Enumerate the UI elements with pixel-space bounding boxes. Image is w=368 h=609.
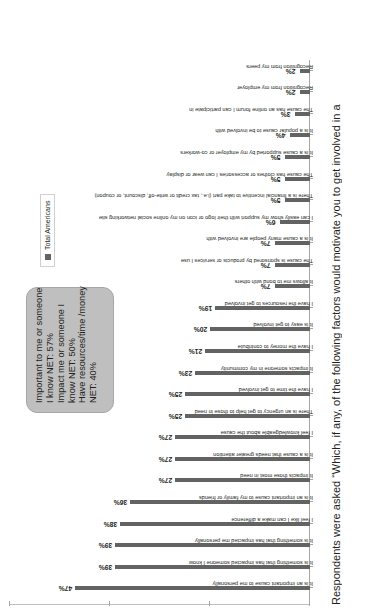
bar-value-label: 25%	[168, 412, 184, 419]
category-label: It is a cause many people are involved w…	[206, 236, 313, 242]
category-label: It is an important cause to my family or…	[199, 494, 313, 500]
category-tick	[310, 242, 313, 243]
category-tick	[310, 436, 313, 437]
category-tick	[310, 479, 313, 480]
category-label: It is a popular cause to be involved wit…	[215, 128, 313, 134]
category-label: It is something that has impacted someon…	[189, 559, 313, 565]
category-label: There is a financial incentive to take p…	[95, 193, 313, 199]
category-label: It is a cause that needs greater attenti…	[213, 451, 313, 457]
category-tick	[310, 544, 313, 545]
bar-value-label: 19%	[198, 304, 214, 311]
category-label: It allows me to bond with others	[235, 279, 313, 285]
category-label: Recognition from my peers	[246, 63, 313, 69]
category-tick	[310, 587, 313, 588]
category-label: The cause is sponsored by products or se…	[181, 257, 313, 263]
category-label: I have the money to contribute	[238, 343, 313, 349]
bar-value-label: 27%	[158, 477, 174, 484]
category-label: It is easy to get involved	[253, 322, 313, 328]
category-label: It impacts someone in my community	[221, 365, 313, 371]
callout-line-2: Impact me or someone I	[56, 297, 67, 403]
bar-value-label: 27%	[158, 455, 174, 462]
category-tick	[310, 156, 313, 157]
value-axis-tick	[309, 601, 310, 606]
bar-value-label: 25%	[168, 391, 184, 398]
bar	[175, 478, 310, 482]
rotated-slide-canvas: 0%20%40%60% 47%39%39%38%36%27%27%27%25%2…	[0, 0, 368, 609]
category-label: Recognition from my employer	[237, 85, 313, 91]
slide: 0%20%40%60% 47%39%39%38%36%27%27%27%25%2…	[0, 0, 368, 609]
callout-line-1: I know NET: 57%	[45, 297, 56, 403]
category-label: I have the resources to get involved	[225, 300, 313, 306]
category-tick	[310, 328, 313, 329]
net-summary-callout: Important to me or someone I know NET: 5…	[26, 287, 114, 413]
bar-value-label: 47%	[58, 585, 74, 592]
category-tick	[310, 91, 313, 92]
value-axis-tick	[209, 601, 210, 606]
category-tick	[310, 350, 313, 351]
category-tick	[310, 393, 313, 394]
value-axis-tick	[109, 601, 110, 606]
callout-line-3: know NET: 50%	[67, 297, 78, 403]
category-tick	[310, 501, 313, 502]
category-tick	[310, 199, 313, 200]
chart-legend: Total Americans	[40, 194, 55, 267]
category-label: I feel knowledgeable about the cause	[221, 430, 313, 436]
bar-value-label: 21%	[188, 348, 204, 355]
category-label: There is an urgency to get help to those…	[195, 408, 313, 414]
value-axis-tick	[9, 601, 10, 606]
bar-value-label: 20%	[193, 326, 209, 333]
legend-label: Total Americans	[44, 201, 51, 250]
category-label: The cause has an online forum I can part…	[189, 106, 313, 112]
category-tick	[310, 285, 313, 286]
bar-value-label: 39%	[98, 542, 114, 549]
category-label: I feel like I can make a difference	[231, 516, 313, 522]
bar-value-label: 38%	[103, 520, 119, 527]
category-label: I can easily show my support with their …	[99, 214, 313, 220]
bar-value-label: 27%	[158, 434, 174, 441]
callout-line-4: Have resources/time /money	[77, 297, 88, 403]
bar-value-label: 36%	[113, 498, 129, 505]
bar-value-label: 39%	[98, 563, 114, 570]
category-tick	[310, 134, 313, 135]
value-axis-line	[10, 604, 310, 605]
callout-line-5: NET: 40%	[88, 297, 99, 403]
callout-line-0: Important to me or someone	[34, 297, 45, 403]
bar	[210, 327, 310, 331]
category-label: It is a cause supported by my employer o…	[180, 149, 313, 155]
legend-swatch-icon	[45, 254, 51, 260]
bar-value-label: 23%	[178, 369, 194, 376]
category-label: It impacts those most in need	[240, 473, 313, 479]
category-label: It is an important cause to me personall…	[213, 581, 313, 587]
category-tick	[310, 307, 313, 308]
category-label: The cause has clothes or accessories I c…	[167, 171, 313, 177]
chart-footnote: Respondents were asked “Which, if any, o…	[330, 5, 342, 605]
bar	[290, 133, 310, 137]
category-label: I have the time to get involved	[239, 387, 313, 393]
category-label: It is something that has impacted me per…	[195, 538, 313, 544]
